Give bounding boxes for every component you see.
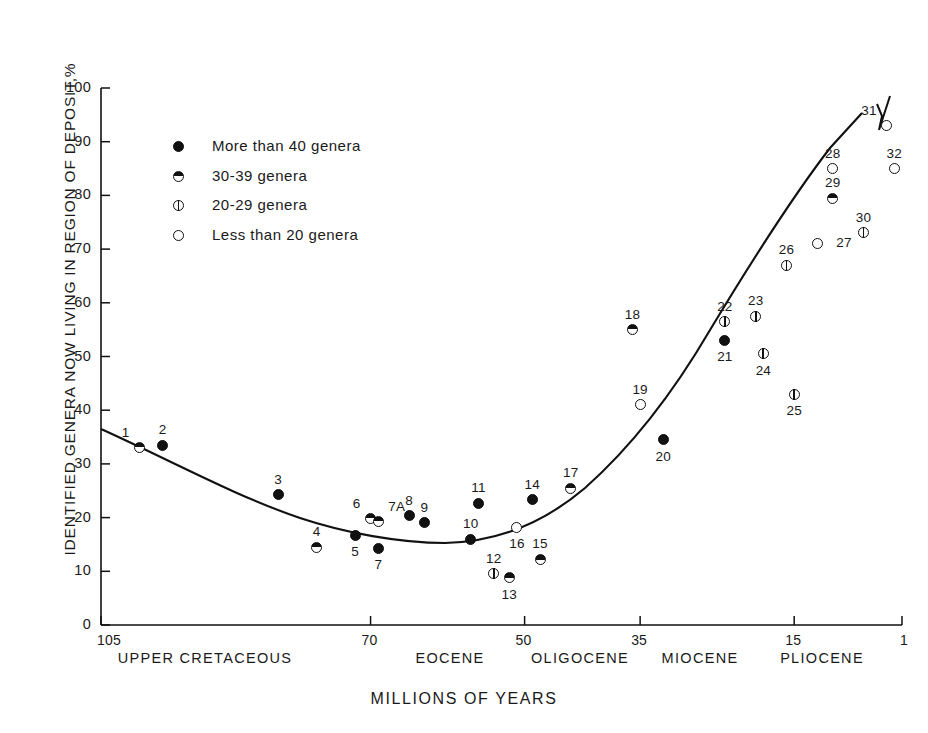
- data-point-label-7A: 7A: [388, 499, 405, 514]
- data-point-7[interactable]: [373, 543, 384, 554]
- data-point-26[interactable]: [781, 260, 792, 271]
- data-point-label-29: 29: [825, 175, 840, 190]
- data-point-label-16: 16: [509, 536, 524, 551]
- legend-label-2: 30-39 genera: [212, 167, 307, 184]
- epoch-label-pliocene: PLIOCENE: [780, 650, 864, 666]
- x-tick-70: 70: [362, 632, 378, 648]
- data-point-label-10: 10: [463, 516, 478, 531]
- data-point-label-26: 26: [779, 242, 794, 257]
- data-point-label-19: 19: [632, 382, 647, 397]
- data-point-15[interactable]: [535, 554, 546, 565]
- data-point-label-21: 21: [717, 349, 732, 364]
- legend-label-4: Less than 20 genera: [212, 226, 358, 243]
- y-tick-10: 10: [51, 562, 91, 578]
- epoch-label-eocene: EOCENE: [415, 650, 484, 666]
- data-point-label-31: 31: [861, 103, 876, 118]
- data-point-label-6: 6: [353, 496, 361, 511]
- chart-figure: IDENTIFIED GENERA NOW LIVING IN REGION O…: [0, 0, 928, 733]
- y-tick-60: 60: [51, 294, 91, 310]
- y-tick-50: 50: [51, 348, 91, 364]
- filled-circle-icon: [173, 141, 184, 152]
- data-point-label-7: 7: [374, 557, 382, 572]
- y-tick-80: 80: [51, 186, 91, 202]
- open-circle-icon: [173, 230, 184, 241]
- data-point-label-23: 23: [748, 293, 763, 308]
- data-point-25[interactable]: [789, 389, 800, 400]
- data-point-label-18: 18: [625, 307, 640, 322]
- data-point-label-12: 12: [486, 551, 501, 566]
- data-point-label-5: 5: [351, 544, 359, 559]
- half-filled-circle-icon: [173, 171, 184, 182]
- data-point-label-27: 27: [836, 235, 851, 250]
- data-point-label-8: 8: [405, 493, 413, 508]
- epoch-label-upper-cretaceous: UPPER CRETACEOUS: [118, 650, 292, 666]
- x-tick-50: 50: [516, 632, 532, 648]
- bar-circle-icon: [173, 200, 184, 211]
- x-tick-1: 1: [900, 632, 908, 648]
- data-point-29[interactable]: [827, 193, 838, 204]
- data-point-label-28: 28: [825, 146, 840, 161]
- epoch-label-oligocene: OLIGOCENE: [531, 650, 629, 666]
- data-point-label-3: 3: [274, 472, 282, 487]
- data-point-label-20: 20: [656, 449, 671, 464]
- data-point-label-15: 15: [532, 536, 547, 551]
- y-tick-20: 20: [51, 509, 91, 525]
- data-point-label-24: 24: [756, 363, 771, 378]
- data-point-label-17: 17: [563, 465, 578, 480]
- data-point-3[interactable]: [273, 489, 284, 500]
- data-point-18[interactable]: [627, 324, 638, 335]
- y-tick-100: 100: [51, 79, 91, 95]
- y-tick-70: 70: [51, 240, 91, 256]
- data-point-label-1: 1: [122, 425, 130, 440]
- data-point-23[interactable]: [750, 311, 761, 322]
- plot-axes: [0, 0, 928, 733]
- data-point-17[interactable]: [565, 483, 576, 494]
- epoch-label-miocene: MIOCENE: [662, 650, 739, 666]
- data-point-2[interactable]: [157, 440, 168, 451]
- y-tick-40: 40: [51, 401, 91, 417]
- x-tick-35: 35: [631, 632, 647, 648]
- y-tick-0: 0: [51, 616, 91, 632]
- data-point-11[interactable]: [473, 498, 484, 509]
- legend-label-1: More than 40 genera: [212, 137, 361, 154]
- data-point-label-4: 4: [313, 524, 321, 539]
- y-tick-30: 30: [51, 455, 91, 471]
- data-point-32[interactable]: [889, 163, 900, 174]
- data-point-label-22: 22: [717, 299, 732, 314]
- x-tick-15: 15: [785, 632, 801, 648]
- data-point-label-9: 9: [421, 500, 429, 515]
- data-point-label-32: 32: [887, 146, 902, 161]
- data-point-19[interactable]: [635, 399, 646, 410]
- data-point-label-25: 25: [786, 403, 801, 418]
- data-point-5[interactable]: [350, 530, 361, 541]
- x-tick-105: 105: [97, 632, 121, 648]
- data-point-label-14: 14: [525, 477, 540, 492]
- legend-label-3: 20-29 genera: [212, 196, 307, 213]
- data-point-label-13: 13: [501, 587, 516, 602]
- data-point-label-30: 30: [856, 210, 871, 225]
- data-point-label-2: 2: [159, 422, 167, 437]
- data-point-13[interactable]: [504, 572, 515, 583]
- y-tick-90: 90: [51, 133, 91, 149]
- data-point-label-11: 11: [471, 480, 485, 495]
- data-point-20[interactable]: [658, 434, 669, 445]
- data-point-4[interactable]: [311, 542, 322, 553]
- data-point-10[interactable]: [465, 534, 476, 545]
- data-point-27[interactable]: [812, 238, 823, 249]
